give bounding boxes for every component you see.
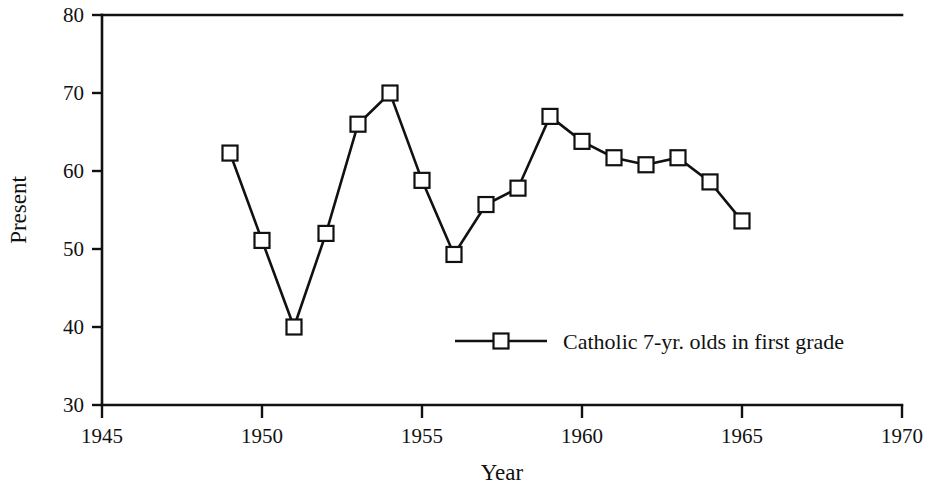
data-point-marker — [447, 247, 462, 262]
data-point-marker — [319, 226, 334, 241]
data-point-marker — [479, 197, 494, 212]
x-axis-ticks — [102, 405, 902, 418]
y-tick-label: 30 — [63, 393, 84, 417]
legend-square-marker — [494, 334, 509, 349]
y-axis-title: Present — [6, 176, 31, 244]
data-point-marker — [511, 181, 526, 196]
x-tick-label: 1970 — [881, 424, 923, 448]
y-tick-label: 40 — [63, 315, 84, 339]
y-tick-label: 50 — [63, 237, 84, 261]
data-point-marker — [351, 117, 366, 132]
data-point-marker — [671, 150, 686, 165]
chart-canvas: 304050607080 194519501955196019651970 Ca… — [0, 0, 930, 494]
data-point-marker — [383, 86, 398, 101]
data-series-catholic-7yr-olds — [223, 86, 750, 335]
legend: Catholic 7-yr. olds in first grade — [455, 329, 844, 354]
data-point-marker — [415, 173, 430, 188]
data-point-marker — [255, 233, 270, 248]
data-point-marker — [223, 146, 238, 161]
legend-label: Catholic 7-yr. olds in first grade — [563, 329, 844, 354]
line-chart: 304050607080 194519501955196019651970 Ca… — [0, 0, 930, 494]
y-tick-label: 60 — [63, 159, 84, 183]
x-tick-label: 1965 — [721, 424, 763, 448]
data-point-marker — [735, 213, 750, 228]
x-tick-label: 1950 — [241, 424, 283, 448]
x-tick-label: 1945 — [81, 424, 123, 448]
y-axis-tick-labels: 304050607080 — [63, 3, 84, 417]
data-point-marker — [543, 109, 558, 124]
x-tick-label: 1960 — [561, 424, 603, 448]
y-tick-label: 70 — [63, 81, 84, 105]
y-axis-ticks — [92, 15, 102, 405]
x-axis-title: Year — [481, 460, 524, 485]
y-tick-label: 80 — [63, 3, 84, 27]
data-point-marker — [575, 134, 590, 149]
data-point-marker — [287, 320, 302, 335]
x-axis-tick-labels: 194519501955196019651970 — [81, 424, 923, 448]
x-tick-label: 1955 — [401, 424, 443, 448]
data-point-marker — [703, 174, 718, 189]
data-point-marker — [607, 150, 622, 165]
series-markers — [223, 86, 750, 335]
data-point-marker — [639, 157, 654, 172]
